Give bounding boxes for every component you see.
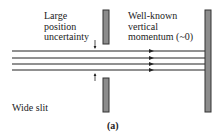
arrowhead-icon <box>149 56 154 60</box>
arrowhead-icon <box>149 49 154 53</box>
uncertainty-arrows <box>94 40 97 81</box>
label-line: Well-known <box>128 11 193 22</box>
slit-bottom-bar <box>103 78 109 112</box>
label-line: momentum (~0) <box>128 32 193 43</box>
beam-arrowheads <box>149 49 154 72</box>
arrowhead-icon <box>149 62 154 66</box>
up-arrow-icon <box>94 73 97 76</box>
wide-slit-label: Wide slit <box>12 103 48 114</box>
vertical-momentum-label: Well-known vertical momentum (~0) <box>128 11 193 43</box>
slit-top-bar <box>103 10 109 44</box>
arrowhead-icon <box>149 68 154 72</box>
detection-screen <box>205 10 211 112</box>
label-line: uncertainty <box>44 32 89 43</box>
figure-caption: (a) <box>107 121 119 132</box>
down-arrow-icon <box>94 46 97 49</box>
beam-lines <box>12 51 205 70</box>
position-uncertainty-label: Large position uncertainty <box>44 11 89 43</box>
label-line: Large <box>44 11 89 22</box>
